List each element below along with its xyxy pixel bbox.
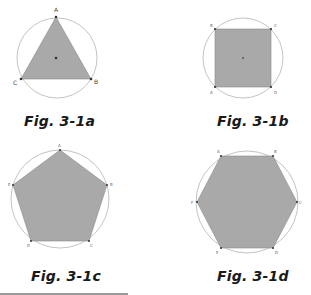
vertex-label-c: C bbox=[299, 200, 302, 205]
hexagon-shape bbox=[197, 156, 297, 248]
caption-fig-3-1a: Fig. 3-1a bbox=[24, 113, 95, 129]
vertex-label-a: A bbox=[217, 149, 220, 154]
figure-square: A B C D bbox=[155, 0, 311, 110]
vertex-label-a: A bbox=[58, 143, 61, 148]
center-point bbox=[55, 57, 58, 60]
vertex-label-a: A bbox=[54, 6, 59, 13]
vertex-label-d: D bbox=[27, 243, 30, 248]
vertex-label-d: D bbox=[274, 90, 277, 95]
vertex-label-f: F bbox=[191, 200, 194, 205]
vertex-label-c: C bbox=[90, 243, 93, 248]
figure-hexagon: A B C D E F bbox=[155, 140, 311, 270]
vertex-label-c: C bbox=[13, 79, 17, 86]
figure-triangle: A B C bbox=[0, 0, 155, 110]
caption-fig-3-1c: Fig. 3-1c bbox=[31, 268, 101, 284]
vertex-label-e: E bbox=[8, 182, 11, 187]
vertex-label-b: B bbox=[210, 23, 213, 28]
vertex-label-b: B bbox=[274, 149, 277, 154]
vertex-label-d: D bbox=[275, 250, 278, 255]
center-point bbox=[242, 57, 244, 59]
caption-fig-3-1b: Fig. 3-1b bbox=[217, 113, 289, 129]
vertex-label-a: A bbox=[210, 90, 213, 95]
vertex-label-b: B bbox=[94, 78, 98, 85]
vertex-label-b: B bbox=[110, 182, 113, 187]
figure-pentagon: A B C D E bbox=[0, 140, 155, 270]
vertex-label-e: E bbox=[216, 250, 219, 255]
caption-fig-3-1d: Fig. 3-1d bbox=[217, 268, 289, 284]
triangle-shape bbox=[21, 17, 91, 79]
vertex-label-c: C bbox=[274, 23, 277, 28]
pentagon-shape bbox=[13, 150, 107, 241]
